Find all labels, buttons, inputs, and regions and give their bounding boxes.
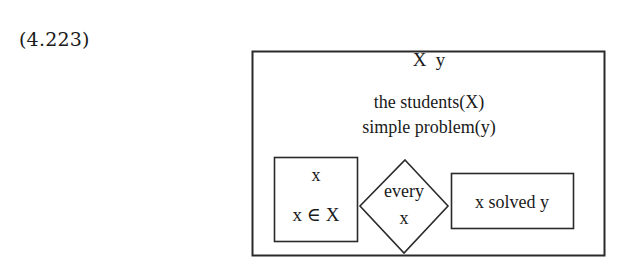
quantifier-word: every [384, 181, 424, 201]
quantifier-diamond [360, 160, 448, 253]
drs-condition-students: the students(X) [374, 92, 484, 113]
drs-condition-problem: simple problem(y) [362, 117, 495, 138]
scope-condition: x solved y [475, 192, 549, 212]
drs-universe: X y [413, 49, 446, 70]
drs-diagram: X y the students(X) simple problem(y) x … [0, 0, 624, 263]
restrictor-universe: x [312, 165, 321, 185]
quantifier-variable: x [400, 208, 409, 228]
restrictor-condition: x ∈ X [293, 204, 340, 225]
